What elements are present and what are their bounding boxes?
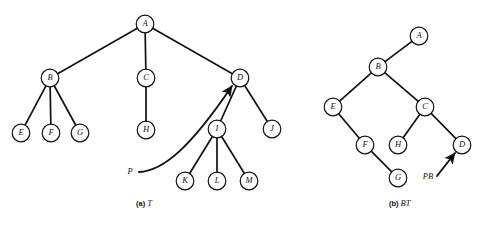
node-A[interactable]: A <box>136 15 154 33</box>
node-A[interactable]: A <box>410 27 428 45</box>
node-label-A: A <box>141 18 148 28</box>
node-E[interactable]: E <box>12 124 30 142</box>
node-label-C: C <box>143 72 149 82</box>
tree-edge-I-K <box>190 136 213 173</box>
node-G[interactable]: G <box>389 169 407 187</box>
panel-a-caption-prefix: (a) <box>136 199 146 208</box>
node-B[interactable]: B <box>41 69 59 87</box>
tree-edge-F-G <box>371 151 392 172</box>
node-H[interactable]: H <box>137 121 155 139</box>
node-K[interactable]: K <box>176 172 194 190</box>
node-label-B: B <box>375 61 380 71</box>
node-label-F: F <box>361 139 368 149</box>
tree-edge-E-F <box>339 114 360 139</box>
node-label-G: G <box>395 172 401 182</box>
tree-edge-B-F <box>50 87 51 124</box>
panel-b-caption-name: BT <box>401 198 412 208</box>
tree-edge-A-D <box>153 28 233 73</box>
pointer-P-label: P <box>126 166 132 176</box>
node-D[interactable]: D <box>453 136 471 154</box>
panel-b-caption: (b)BT <box>389 198 412 208</box>
tree-edge-B-E <box>340 73 372 101</box>
node-H[interactable]: H <box>389 136 407 154</box>
node-F[interactable]: F <box>356 136 374 154</box>
node-label-F: F <box>47 127 54 137</box>
node-G[interactable]: G <box>71 124 89 142</box>
tree-edge-D-J <box>245 85 268 121</box>
figure-canvas: ABCDEFGHIJKLMP(a)T ABECFHDGPB(b)BT <box>0 0 481 225</box>
node-I[interactable]: I <box>208 120 226 138</box>
tree-edge-B-E <box>25 86 46 125</box>
node-E[interactable]: E <box>324 98 342 116</box>
node-label-D: D <box>236 72 244 82</box>
node-label-H: H <box>142 124 150 134</box>
tree-edge-A-B <box>58 28 138 73</box>
node-C[interactable]: C <box>137 69 155 87</box>
node-F[interactable]: F <box>42 124 60 142</box>
panel-a-tree-T: ABCDEFGHIJKLMP(a)T <box>12 15 281 208</box>
node-M[interactable]: M <box>240 172 258 190</box>
panel-b-tree-BT: ABECFHDGPB(b)BT <box>324 27 471 208</box>
tree-edge-C-D <box>431 113 456 138</box>
panel-a-caption-name: T <box>147 198 153 208</box>
pointer-PB-label: PB <box>422 171 433 181</box>
node-label-E: E <box>17 127 24 137</box>
node-L[interactable]: L <box>208 172 226 190</box>
tree-edge-B-C <box>385 73 419 102</box>
tree-edge-B-G <box>54 86 76 126</box>
node-label-B: B <box>47 72 52 82</box>
node-label-M: M <box>244 175 253 185</box>
node-label-C: C <box>422 101 428 111</box>
panel-b-caption-prefix: (b) <box>389 199 399 208</box>
tree-edge-C-H <box>403 114 420 138</box>
node-B[interactable]: B <box>369 58 387 76</box>
node-label-A: A <box>415 30 422 40</box>
node-C[interactable]: C <box>416 98 434 116</box>
pointer-PB-arrow <box>437 153 455 176</box>
node-label-H: H <box>394 139 402 149</box>
node-label-E: E <box>329 101 336 111</box>
node-D[interactable]: D <box>231 69 249 87</box>
figure-container: ABCDEFGHIJKLMP(a)T ABECFHDGPB(b)BT <box>0 0 481 225</box>
panel-a-caption: (a)T <box>136 198 153 208</box>
node-label-L: L <box>214 175 220 185</box>
node-label-D: D <box>458 139 466 149</box>
tree-edge-A-B <box>385 41 412 61</box>
node-label-G: G <box>77 127 83 137</box>
node-J[interactable]: J <box>263 120 281 138</box>
tree-edge-I-M <box>222 136 245 173</box>
tree-edge-A-C <box>145 33 146 69</box>
